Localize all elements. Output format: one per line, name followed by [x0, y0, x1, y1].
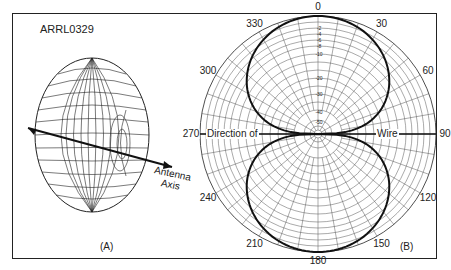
angle-label: 330 [246, 19, 263, 29]
angle-label: 180 [310, 256, 327, 266]
figure-id-label: ARRL0329 [40, 24, 94, 35]
angle-label: 120 [420, 193, 437, 203]
angle-label: 270 [183, 129, 200, 139]
direction-of-label: Direction of [206, 129, 259, 139]
angle-label: 30 [376, 19, 387, 29]
angle-label: 210 [246, 239, 263, 249]
radial-db-label: -8 [317, 44, 321, 49]
radial-db-label: -10 [315, 52, 322, 57]
radial-db-label: -50 [315, 120, 322, 125]
angle-label: 300 [200, 66, 217, 76]
radial-db-label: -20 [315, 76, 322, 81]
wire-label: Wire [376, 129, 399, 139]
angle-label: 90 [439, 129, 450, 139]
angle-label: 150 [373, 239, 390, 249]
radial-db-label: -30 [315, 92, 322, 97]
angle-label: 60 [422, 66, 433, 76]
angle-label: 0 [315, 2, 321, 12]
radial-db-label: -40 [315, 110, 322, 115]
panel-b-label: (B) [400, 242, 413, 252]
angle-label: 240 [200, 193, 217, 203]
antenna-axis-arrow [28, 128, 172, 169]
panel-a-label: (A) [100, 242, 113, 252]
